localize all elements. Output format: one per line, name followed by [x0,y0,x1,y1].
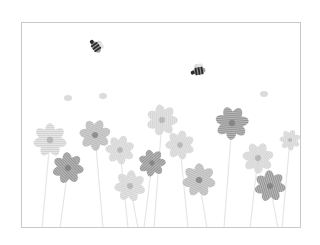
flower-bud [64,95,72,101]
meadow-illustration [0,0,320,245]
flower [278,128,302,152]
buds-layer [64,91,268,101]
illustration-scene [0,0,320,245]
flower-bud [99,93,107,99]
flower [145,103,178,137]
flower [213,104,250,141]
bee-right-icon [189,63,206,76]
flower-bud [260,91,268,97]
flowers-layer [32,103,301,206]
flower-center [47,137,53,143]
flower [32,123,67,157]
flower [176,157,223,203]
bees-layer [88,36,206,76]
bee-left-icon [88,36,106,55]
